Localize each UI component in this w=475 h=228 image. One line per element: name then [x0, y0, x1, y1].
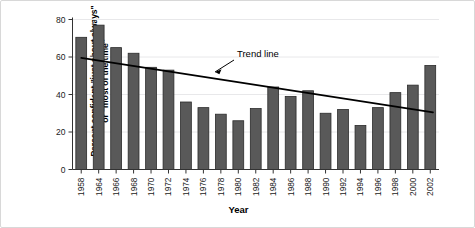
annotation-leader	[215, 60, 234, 72]
bar	[285, 96, 296, 169]
y-axis-ticks: 020406080	[56, 15, 72, 175]
bar	[320, 113, 331, 169]
x-tick-label: 1982	[251, 177, 261, 196]
x-tick-label: 1988	[303, 177, 313, 196]
bar	[250, 109, 261, 170]
bar	[111, 48, 122, 170]
trend-line-annotation: Trend line	[215, 48, 279, 74]
x-tick-label: 1994	[355, 177, 365, 196]
bar	[268, 87, 279, 170]
bar	[93, 25, 104, 169]
x-tick-label: 1998	[390, 177, 400, 196]
x-tick-label: 1978	[216, 177, 226, 196]
bar	[215, 114, 226, 169]
bar	[373, 108, 384, 170]
annotation-label: Trend line	[237, 48, 279, 59]
bar	[233, 121, 244, 170]
y-tick-label: 20	[56, 127, 66, 137]
x-tick-label: 1972	[163, 177, 173, 196]
bar	[181, 102, 192, 170]
plot-area: 020406080 195819641966196819701972197419…	[1, 1, 475, 228]
y-tick-label: 60	[56, 52, 66, 62]
x-tick-label: 1976	[198, 177, 208, 196]
x-tick-label: 1992	[338, 177, 348, 196]
bars-group	[76, 25, 436, 169]
bar	[355, 125, 366, 169]
x-tick-label: 1964	[94, 177, 104, 196]
bar	[390, 93, 401, 170]
x-tick-label: 1966	[111, 177, 121, 196]
x-tick-label: 1958	[76, 177, 86, 196]
x-tick-label: 1986	[286, 177, 296, 196]
x-tick-label: 2000	[408, 177, 418, 196]
y-tick-label: 0	[61, 165, 66, 175]
x-tick-label: 1970	[146, 177, 156, 196]
x-axis-ticks: 1958196419661968197019721974197619781980…	[76, 170, 435, 196]
bar	[338, 110, 349, 170]
y-tick-label: 40	[56, 90, 66, 100]
chart-figure: Percent confident "just about always" or…	[0, 0, 475, 228]
x-tick-label: 1990	[321, 177, 331, 196]
bar	[425, 65, 436, 169]
bar	[128, 53, 139, 169]
bar	[146, 67, 157, 169]
x-axis-label: Year	[1, 204, 475, 215]
x-tick-label: 1984	[268, 177, 278, 196]
bar	[198, 108, 209, 170]
x-tick-label: 1968	[129, 177, 139, 196]
x-tick-label: 1996	[373, 177, 383, 196]
x-tick-label: 2002	[425, 177, 435, 196]
bar	[163, 70, 174, 169]
bar	[303, 91, 314, 170]
bar	[407, 85, 418, 169]
x-tick-label: 1980	[233, 177, 243, 196]
y-tick-label: 80	[56, 15, 66, 25]
x-tick-label: 1974	[181, 177, 191, 196]
